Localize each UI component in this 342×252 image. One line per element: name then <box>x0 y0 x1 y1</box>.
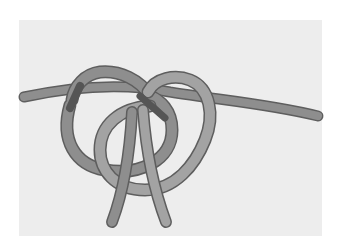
knot-illustration <box>0 0 342 252</box>
rope-right-end <box>143 110 166 222</box>
